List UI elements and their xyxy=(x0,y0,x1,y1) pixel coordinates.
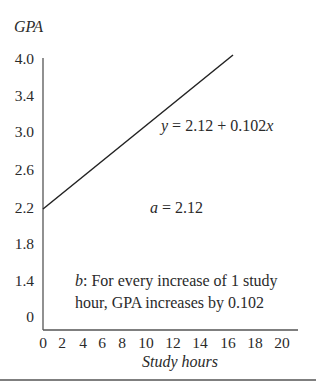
y-axis-label: GPA xyxy=(14,18,43,36)
y-tick: 3.0 xyxy=(4,123,34,141)
x-axis-label: Study hours xyxy=(120,353,240,371)
y-tick: 2.6 xyxy=(4,161,34,179)
chart-canvas xyxy=(0,0,316,387)
y-tick: 2.2 xyxy=(4,199,34,217)
slope-line-1: b: For every increase of 1 study xyxy=(75,270,278,292)
equation-x: x xyxy=(266,117,273,134)
x-tick: 18 xyxy=(243,334,267,352)
x-tick: 14 xyxy=(188,334,212,352)
x-tick: 10 xyxy=(134,334,158,352)
slope-line-2: hour, GPA increases by 0.102 xyxy=(75,292,278,314)
regression-equation: y = 2.12 + 0.102x xyxy=(161,117,273,135)
intercept-annotation: a = 2.12 xyxy=(150,199,203,217)
y-tick: 3.4 xyxy=(4,87,34,105)
y-tick: 4.0 xyxy=(4,50,34,68)
slope-annotation: b: For every increase of 1 study hour, G… xyxy=(75,270,278,314)
slope-symbol: b xyxy=(75,272,83,289)
x-tick: 8 xyxy=(110,334,134,352)
equation-body: = 2.12 + 0.102 xyxy=(168,117,266,134)
intercept-value: = 2.12 xyxy=(158,199,203,216)
y-tick: 1.4 xyxy=(4,272,34,290)
x-tick: 12 xyxy=(161,334,185,352)
intercept-symbol: a xyxy=(150,199,158,216)
y-tick: 0 xyxy=(4,308,34,326)
y-tick: 1.8 xyxy=(4,235,34,253)
x-tick: 20 xyxy=(270,334,294,352)
x-tick: 16 xyxy=(216,334,240,352)
